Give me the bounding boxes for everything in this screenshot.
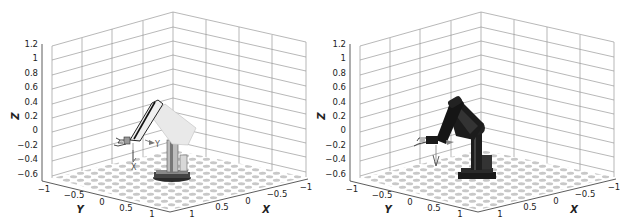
svg-text:0: 0 (245, 196, 250, 206)
svg-text:−1: −1 (38, 184, 51, 194)
svg-text:0: 0 (33, 125, 38, 135)
svg-text:0: 0 (99, 197, 104, 207)
grid-left-wall (52, 12, 173, 178)
svg-text:0: 0 (341, 125, 346, 135)
plot-3d-right: 1.2 1 0.8 0.6 0.4 0.2 0 −0.2 −0.4 −0.6 Z… (308, 0, 623, 224)
z-axis-label: Z (316, 112, 327, 121)
svg-text:−0.4: −0.4 (17, 154, 38, 164)
grid-left-wall (360, 12, 481, 178)
svg-text:0.8: 0.8 (332, 68, 346, 78)
svg-text:−0.5: −0.5 (575, 189, 596, 199)
svg-text:−1: −1 (346, 184, 359, 194)
svg-text:0.2: 0.2 (332, 111, 346, 121)
svg-text:0.4: 0.4 (24, 97, 38, 107)
svg-text:0.6: 0.6 (332, 82, 346, 92)
y-axis-label: Y (76, 204, 85, 215)
svg-text:0.5: 0.5 (523, 202, 537, 212)
x-axis-label: X (569, 204, 579, 215)
svg-text:0: 0 (407, 197, 412, 207)
svg-text:1: 1 (457, 209, 462, 219)
svg-text:−0.2: −0.2 (17, 140, 38, 150)
svg-text:1: 1 (341, 53, 346, 63)
grid-right-wall (173, 12, 306, 177)
frame-x-label: X (131, 163, 137, 172)
svg-text:−0.6: −0.6 (325, 169, 346, 179)
svg-text:−0.5: −0.5 (64, 190, 85, 200)
z-axis-label: Z (10, 112, 21, 121)
svg-text:0.5: 0.5 (427, 203, 441, 213)
plot-3d-left: 1.2 1 0.8 0.6 0.4 0.2 0 −0.2 −0.4 −0.6 Z… (0, 0, 312, 224)
svg-text:1: 1 (33, 53, 38, 63)
svg-text:0.6: 0.6 (24, 82, 38, 92)
svg-text:0.2: 0.2 (24, 111, 38, 121)
svg-text:0: 0 (553, 196, 558, 206)
robot-plot-left: 1.2 1 0.8 0.6 0.4 0.2 0 −0.2 −0.4 −0.6 Z… (0, 0, 312, 224)
svg-text:1.2: 1.2 (24, 39, 38, 49)
svg-text:0.8: 0.8 (24, 68, 38, 78)
svg-text:−0.5: −0.5 (372, 190, 393, 200)
svg-text:0.4: 0.4 (332, 97, 346, 107)
svg-text:1.2: 1.2 (332, 39, 346, 49)
grid-right-wall (481, 12, 614, 177)
z-ticks: 1.2 1 0.8 0.6 0.4 0.2 0 −0.2 −0.4 −0.6 (325, 39, 346, 179)
svg-text:−0.5: −0.5 (267, 189, 288, 199)
svg-text:0.5: 0.5 (119, 203, 133, 213)
svg-text:1: 1 (149, 209, 154, 219)
robot-plot-right: 1.2 1 0.8 0.6 0.4 0.2 0 −0.2 −0.4 −0.6 Z… (308, 0, 620, 224)
svg-text:−1: −1 (608, 182, 621, 192)
svg-text:−0.6: −0.6 (17, 169, 38, 179)
z-ticks: 1.2 1 0.8 0.6 0.4 0.2 0 −0.2 −0.4 −0.6 (17, 39, 38, 179)
svg-text:−0.2: −0.2 (325, 140, 346, 150)
svg-text:1: 1 (189, 209, 194, 219)
svg-text:−0.4: −0.4 (325, 154, 346, 164)
frame-y-label: Y (154, 140, 160, 149)
y-axis-label: Y (384, 204, 393, 215)
x-axis-label: X (261, 204, 271, 215)
svg-text:1: 1 (497, 209, 502, 219)
svg-text:0.5: 0.5 (215, 202, 229, 212)
